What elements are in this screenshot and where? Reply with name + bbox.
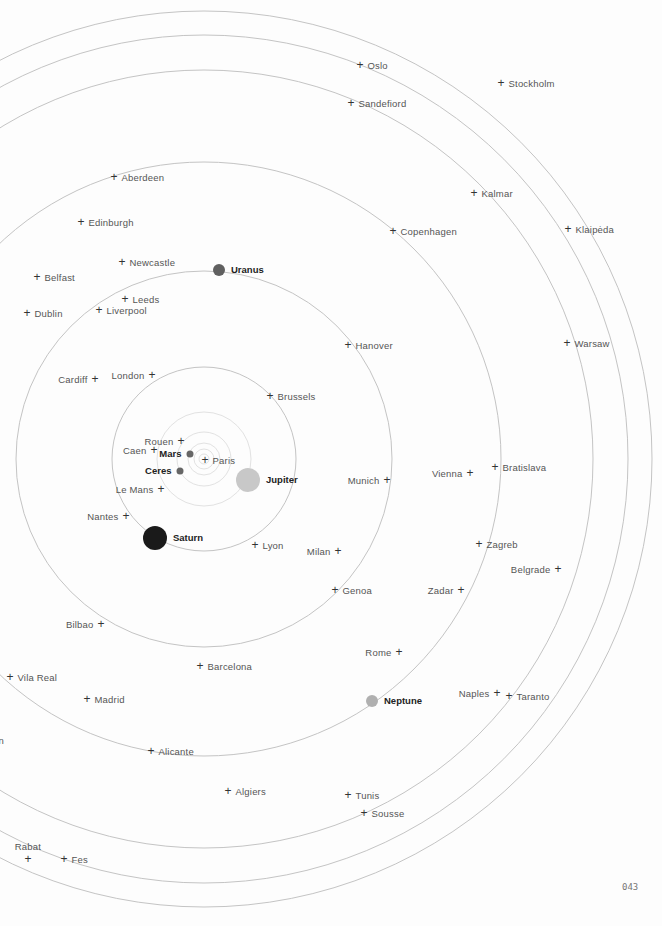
city-label: Nantes bbox=[87, 511, 118, 522]
city-label: Taranto bbox=[517, 691, 550, 702]
crosshair-icon: + bbox=[470, 187, 479, 199]
city-marker-vienna: Vienna+ bbox=[432, 467, 475, 480]
orbit-ring bbox=[0, 35, 628, 883]
crosshair-icon: + bbox=[563, 337, 572, 349]
city-marker-rabat: Rabat+ bbox=[15, 841, 41, 865]
crosshair-icon: + bbox=[344, 789, 353, 801]
city-marker-oslo: +Oslo bbox=[356, 59, 388, 72]
crosshair-icon: + bbox=[122, 510, 131, 522]
planet-saturn-icon bbox=[143, 526, 167, 550]
city-label: Liverpool bbox=[107, 305, 147, 316]
crosshair-icon: + bbox=[251, 539, 260, 551]
city-label: Copenhagen bbox=[401, 226, 457, 237]
crosshair-icon: + bbox=[347, 97, 356, 109]
crosshair-icon: + bbox=[157, 483, 166, 495]
city-label: Fes bbox=[72, 854, 88, 865]
city-marker-bratislava: +Bratislava bbox=[491, 461, 547, 474]
crosshair-icon: + bbox=[6, 671, 15, 683]
city-marker-naples: Naples+ bbox=[459, 687, 502, 700]
city-label: London bbox=[112, 370, 145, 381]
city-marker-bilbao: Bilbao+ bbox=[66, 618, 106, 631]
city-marker-zagreb: +Zagreb bbox=[475, 538, 518, 551]
city-label: Hanover bbox=[356, 340, 393, 351]
city-label: Newcastle bbox=[130, 257, 176, 268]
crosshair-icon: + bbox=[395, 646, 404, 658]
city-marker-aberdeen: +Aberdeen bbox=[110, 171, 165, 184]
city-marker-caen: Caen+ bbox=[123, 444, 159, 457]
crosshair-icon: + bbox=[505, 690, 514, 702]
crosshair-icon: + bbox=[147, 745, 156, 757]
city-marker-belfast: +Belfast bbox=[33, 271, 75, 284]
city-label: Klaipėda bbox=[576, 224, 615, 235]
city-label: bon bbox=[0, 735, 4, 746]
crosshair-icon: + bbox=[389, 225, 398, 237]
city-marker-belgrade: Belgrade+ bbox=[511, 563, 563, 576]
crosshair-icon: + bbox=[23, 853, 32, 865]
crosshair-icon: + bbox=[177, 435, 186, 447]
crosshair-icon: + bbox=[60, 853, 69, 865]
crosshair-icon: + bbox=[110, 171, 119, 183]
city-label: Zadar bbox=[428, 585, 454, 596]
city-marker-cardiff: Cardiff+ bbox=[58, 373, 99, 386]
planet-uranus-icon bbox=[213, 264, 225, 276]
city-marker-alicante: +Alicante bbox=[147, 745, 194, 758]
crosshair-icon: + bbox=[196, 660, 205, 672]
city-label: Sousse bbox=[372, 808, 405, 819]
planet-mars-icon bbox=[187, 451, 194, 458]
city-marker-edinburgh: +Edinburgh bbox=[77, 216, 134, 229]
city-label: Oslo bbox=[368, 60, 388, 71]
orbit-map bbox=[0, 0, 662, 926]
city-label: Edinburgh bbox=[89, 217, 134, 228]
city-marker-tunis: +Tunis bbox=[344, 789, 380, 802]
crosshair-icon: + bbox=[150, 444, 159, 456]
planet-neptune-icon bbox=[366, 695, 378, 707]
city-marker-le-mans: Le Mans+ bbox=[116, 483, 166, 496]
crosshair-icon: + bbox=[334, 545, 343, 557]
orbit-rings bbox=[0, 11, 652, 907]
city-marker-taranto: +Taranto bbox=[505, 690, 550, 703]
city-label: Belfast bbox=[45, 272, 75, 283]
crosshair-icon: + bbox=[148, 369, 157, 381]
city-marker-lisbon: +bon bbox=[0, 734, 4, 747]
planet-label-jupiter: Jupiter bbox=[266, 474, 298, 486]
city-label: Le Mans bbox=[116, 484, 154, 495]
planet-markers bbox=[143, 264, 378, 707]
planet-label-neptune: Neptune bbox=[384, 695, 422, 707]
crosshair-icon: + bbox=[360, 807, 369, 819]
city-marker-hanover: +Hanover bbox=[344, 339, 393, 352]
crosshair-icon: + bbox=[475, 538, 484, 550]
city-marker-klaip-da: +Klaipėda bbox=[564, 223, 615, 236]
crosshair-icon: + bbox=[266, 390, 275, 402]
crosshair-icon: + bbox=[23, 307, 32, 319]
city-marker-london: London+ bbox=[112, 369, 157, 382]
city-label: Munich bbox=[348, 475, 380, 486]
city-label: Bilbao bbox=[66, 619, 94, 630]
city-marker-vila-real: +Vila Real bbox=[6, 671, 58, 684]
city-label: Warsaw bbox=[575, 338, 610, 349]
crosshair-icon: + bbox=[331, 584, 340, 596]
city-marker-paris: +Paris bbox=[201, 454, 236, 467]
crosshair-icon: + bbox=[83, 693, 92, 705]
city-label: Alicante bbox=[159, 746, 194, 757]
crosshair-icon: + bbox=[491, 461, 500, 473]
city-label: Vila Real bbox=[18, 672, 58, 683]
city-label: Paris bbox=[213, 455, 236, 466]
crosshair-icon: + bbox=[466, 467, 475, 479]
planet-label-ceres: Ceres bbox=[145, 465, 171, 477]
crosshair-icon: + bbox=[344, 339, 353, 351]
crosshair-icon: + bbox=[33, 271, 42, 283]
crosshair-icon: + bbox=[95, 304, 104, 316]
city-label: Bratislava bbox=[503, 462, 547, 473]
city-marker-milan: Milan+ bbox=[307, 545, 343, 558]
city-marker-genoa: +Genoa bbox=[331, 584, 373, 597]
city-label: Dublin bbox=[35, 308, 63, 319]
city-label: Aberdeen bbox=[122, 172, 165, 183]
city-label: Caen bbox=[123, 445, 147, 456]
crosshair-icon: + bbox=[224, 785, 233, 797]
city-marker-nantes: Nantes+ bbox=[87, 510, 130, 523]
city-marker-sousse: +Sousse bbox=[360, 807, 405, 820]
city-marker-barcelona: +Barcelona bbox=[196, 660, 253, 673]
city-marker-sandefiord: +Sandefiord bbox=[347, 97, 407, 110]
crosshair-icon: + bbox=[554, 563, 563, 575]
page-number: 043 bbox=[622, 882, 638, 892]
